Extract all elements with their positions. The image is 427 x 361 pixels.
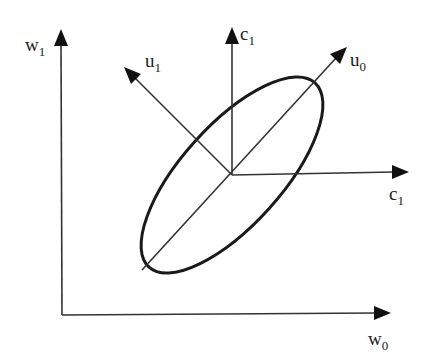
w1-axis-line [61,44,62,315]
c1-horizontal-axis-line [232,172,394,175]
w1-label: w1 [25,34,45,59]
w0-axis-line [62,313,376,315]
w0-arrowhead-icon [374,306,391,320]
c1-horizontal-label: c1 [389,183,404,208]
w0-label: w0 [368,328,388,353]
labels: w1 w0 c1 c1 u0 u1 [25,23,404,353]
u1-label: u1 [145,50,161,75]
w1-arrowhead-icon [54,29,68,46]
c1-vertical-arrowhead-icon [225,27,239,44]
inner-axes [124,27,409,270]
u0-label: u0 [350,49,366,74]
u1-axis-line [135,78,232,175]
c1-horizontal-arrowhead-icon [392,165,409,179]
eigenvector-ellipse-diagram: w1 w0 c1 c1 u0 u1 [0,0,427,361]
outer-axes [54,29,391,320]
c1-vertical-label: c1 [240,23,255,48]
